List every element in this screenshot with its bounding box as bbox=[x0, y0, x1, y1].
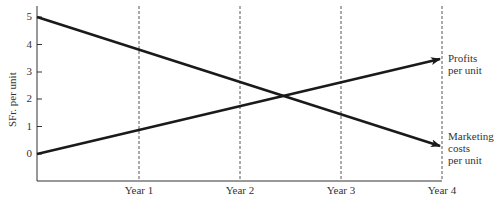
profits-label: Profits per unit bbox=[448, 52, 482, 76]
chart-canvas bbox=[0, 0, 499, 201]
y-tick-2: 2 bbox=[20, 92, 32, 104]
x-tick-year-3: Year 3 bbox=[311, 184, 371, 196]
y-axis-label: SFr. per unit bbox=[6, 72, 18, 127]
marketing-label-line-3: per unit bbox=[448, 154, 494, 166]
x-tick-year-4: Year 4 bbox=[412, 184, 472, 196]
marketing-costs-line bbox=[37, 17, 440, 146]
y-tick-5: 5 bbox=[20, 10, 32, 22]
x-tick-year-2: Year 2 bbox=[210, 184, 270, 196]
y-tick-1: 1 bbox=[20, 120, 32, 132]
profits-label-line-1: Profits bbox=[448, 52, 482, 64]
y-tick-4: 4 bbox=[20, 38, 32, 50]
profits-label-line-2: per unit bbox=[448, 64, 482, 76]
axes bbox=[37, 6, 442, 181]
marketing-label-line-1: Marketing bbox=[448, 130, 494, 142]
marketing-label-line-2: costs bbox=[448, 142, 494, 154]
y-tick-0: 0 bbox=[20, 147, 32, 159]
y-tick-3: 3 bbox=[20, 65, 32, 77]
profits-line bbox=[37, 59, 440, 154]
marketing-costs-label: Marketing costs per unit bbox=[448, 130, 494, 166]
x-tick-year-1: Year 1 bbox=[109, 184, 169, 196]
